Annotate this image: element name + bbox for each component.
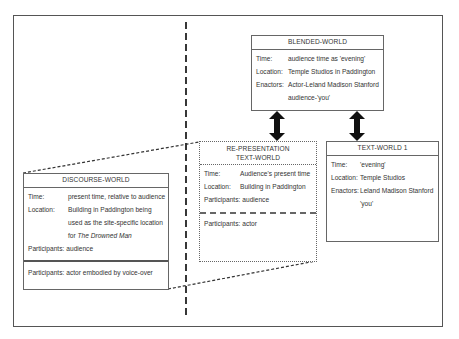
text-world-1-row-enactors-2: 'you'	[331, 198, 434, 211]
discourse-world-box: DISCOURSE-WORLD Time: present time, rela…	[23, 173, 169, 290]
text-world-1-row-location: Location: Temple Studios	[331, 172, 434, 185]
representation-row-time: Time: Audience's present time	[204, 168, 312, 181]
discourse-row-participants: Participants: audience	[28, 243, 164, 256]
discourse-thick-divider	[24, 260, 168, 262]
blended-world-row-time: Time: audience time as 'evening'	[256, 53, 379, 66]
text-world-1-row-enactors: Enactors: Leland Madison Stanford	[331, 185, 434, 198]
discourse-row-location: Location: Building in Paddington being	[28, 204, 164, 217]
representation-text-world-box: RE-PRESENTATION TEXT-WORLD Time: Audienc…	[199, 141, 317, 262]
representation-row-participants: Participants: audience	[204, 194, 312, 207]
text-world-1-row-time: Time: 'evening'	[331, 159, 434, 172]
discourse-row-participants-actor: Participants: actor embodied by voice-ov…	[28, 267, 164, 280]
discourse-row-location-3: for The Drowned Man	[28, 230, 164, 243]
play-title: The Drowned Man	[78, 233, 132, 240]
text-world-1-title: TEXT-WORLD 1	[327, 142, 438, 156]
discourse-world-title: DISCOURSE-WORLD	[24, 174, 168, 188]
discourse-row-location-2: used as the site-specific location	[28, 217, 164, 230]
blended-world-row-enactors-2: audience-'you'	[256, 92, 379, 105]
blended-world-title: BLENDED-WORLD	[252, 36, 383, 50]
representation-row-participants-actor: Participants: actor	[204, 218, 312, 231]
text-world-1-box: TEXT-WORLD 1 Time: 'evening' Location: T…	[326, 141, 439, 242]
discourse-row-time: Time: present time, relative to audience	[28, 191, 164, 204]
representation-row-location: Location: Building in Paddington	[204, 181, 312, 194]
blended-world-box: BLENDED-WORLD Time: audience time as 'ev…	[251, 35, 384, 111]
representation-dashed-divider	[200, 212, 316, 214]
representation-title: RE-PRESENTATION TEXT-WORLD	[200, 142, 316, 165]
blended-world-row-enactors: Enactors: Actor-Leland Madison Stanford	[256, 79, 379, 92]
blended-world-row-location: Location: Temple Studios in Paddington	[256, 66, 379, 79]
